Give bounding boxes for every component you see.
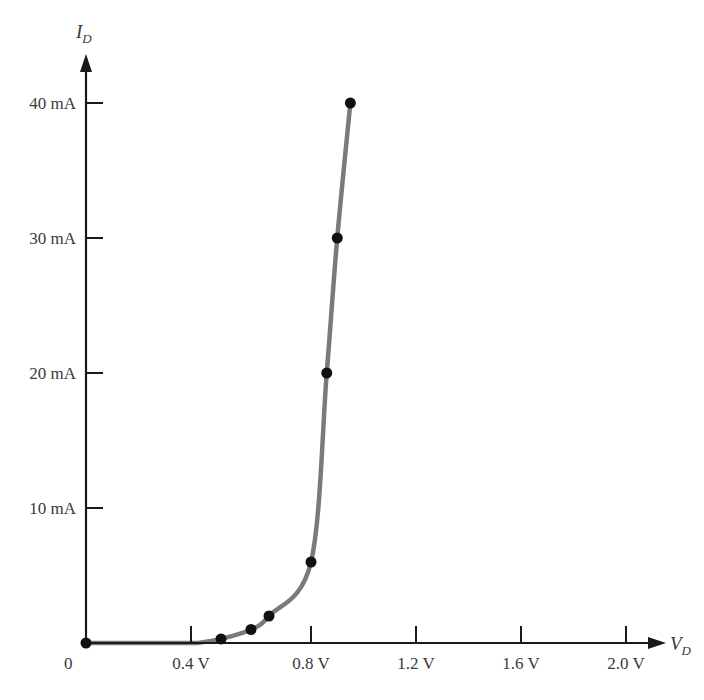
data-points (81, 98, 356, 649)
data-point-marker (332, 233, 343, 244)
data-point-marker (306, 557, 317, 568)
y-axis-arrow-icon (80, 54, 92, 72)
data-point-marker (216, 633, 227, 644)
data-point-marker (321, 368, 332, 379)
x-axis-title: VD (670, 633, 692, 658)
y-axis-title-sub: D (81, 31, 92, 46)
x-axis-arrow-icon (648, 637, 666, 649)
y-axis-title: ID (75, 21, 92, 46)
x-tick-label: 1.2 V (397, 654, 435, 673)
x-tick-label: 0.4 V (172, 654, 210, 673)
data-point-marker (81, 638, 92, 649)
data-point-marker (264, 611, 275, 622)
y-tick-label: 20 mA (29, 364, 76, 383)
y-tick-label: 10 mA (29, 499, 76, 518)
data-point-marker (345, 98, 356, 109)
x-axis-title-sub: D (681, 643, 692, 658)
x-tick-label: 2.0 V (607, 654, 645, 673)
y-tick-label: 40 mA (29, 94, 76, 113)
axes (80, 54, 666, 649)
x-tick-label: 0.8 V (292, 654, 330, 673)
origin-label: 0 (64, 654, 73, 673)
y-tick-label: 30 mA (29, 229, 76, 248)
diode-iv-chart: 0.4 V0.8 V1.2 V1.6 V2.0 V 10 mA20 mA30 m… (0, 0, 704, 700)
data-point-marker (246, 624, 257, 635)
y-ticks: 10 mA20 mA30 mA40 mA (29, 94, 103, 518)
x-tick-label: 1.6 V (502, 654, 540, 673)
